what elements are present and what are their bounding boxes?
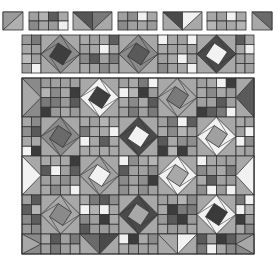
checker-cell [158, 205, 168, 215]
checker-cell [226, 185, 236, 195]
checker-cell [129, 234, 139, 244]
checker-cell [100, 195, 110, 205]
checker-cell [61, 244, 71, 254]
checker-cell [187, 215, 197, 225]
checker-cell [32, 146, 42, 156]
checker-cell [22, 35, 32, 45]
checker-cell [129, 244, 139, 254]
edge-triangle-block [236, 156, 254, 195]
checker-cell [129, 176, 139, 186]
checker-cell [138, 21, 148, 30]
checker-cell [109, 117, 119, 127]
checker-cell [90, 64, 100, 74]
checker-cell [236, 127, 245, 137]
checker-cell [245, 146, 254, 156]
checker-cell [217, 234, 227, 244]
checker-cell [119, 156, 129, 166]
checker-block [119, 156, 158, 195]
checker-cell [178, 195, 188, 205]
checker-block [118, 12, 157, 30]
checker-cell [168, 45, 178, 55]
checker-cell [178, 35, 188, 45]
checker-cell [61, 166, 71, 176]
checker-cell [119, 185, 129, 195]
checker-cell [100, 117, 110, 127]
checker-cell [22, 205, 32, 215]
checker-cell [245, 127, 254, 137]
checker-cell [70, 176, 80, 186]
edge-triangle-block [236, 78, 254, 117]
checker-cell [217, 21, 227, 30]
checker-cell [148, 166, 158, 176]
square-in-square-block [41, 195, 80, 234]
checker-cell [109, 195, 119, 205]
checker-cell [236, 146, 245, 156]
checker-cell [32, 137, 42, 147]
checker-block [119, 234, 158, 254]
checker-block [80, 35, 119, 73]
checker-cell [41, 98, 51, 108]
checker-cell [58, 21, 68, 30]
checker-cell [22, 54, 32, 64]
checker-cell [217, 166, 227, 176]
checker-cell [109, 137, 119, 147]
checker-cell [39, 12, 49, 21]
flying-geese-block [158, 234, 197, 254]
checker-cell [245, 137, 254, 147]
checker-cell [207, 107, 217, 117]
checker-cell [139, 185, 149, 195]
checker-cell [139, 156, 149, 166]
flying-geese-block [73, 12, 112, 30]
checker-cell [226, 234, 236, 244]
checker-cell [32, 205, 42, 215]
checker-cell [22, 215, 32, 225]
checker-cell [118, 12, 128, 21]
checker-cell [139, 166, 149, 176]
checker-cell [178, 146, 188, 156]
checker-cell [70, 156, 80, 166]
checker-cell [187, 127, 197, 137]
edge-triangle-block [22, 234, 41, 254]
square-in-square-block [197, 35, 236, 73]
checker-cell [80, 127, 90, 137]
checker-cell [119, 88, 129, 98]
checker-cell [226, 176, 236, 186]
checker-cell [128, 21, 138, 30]
checker-cell [148, 234, 158, 244]
checker-cell [178, 117, 188, 127]
checker-cell [119, 176, 129, 186]
checker-cell [32, 215, 42, 225]
half-square-triangle-block [3, 12, 23, 30]
checker-cell [217, 12, 227, 21]
checker-cell [129, 88, 139, 98]
checker-cell [22, 45, 32, 55]
checker-cell [236, 21, 246, 30]
checker-cell [22, 195, 32, 205]
checker-cell [168, 35, 178, 45]
checker-block [158, 35, 197, 73]
checker-cell [119, 107, 129, 117]
checker-cell [100, 45, 110, 55]
checker-cell [100, 215, 110, 225]
checker-cell [32, 54, 42, 64]
checker-cell [41, 78, 51, 88]
checker-cell [51, 176, 61, 186]
checker-cell [158, 215, 168, 225]
checker-cell [129, 166, 139, 176]
checker-cell [207, 88, 217, 98]
checker-cell [80, 117, 90, 127]
checker-cell [119, 234, 129, 244]
checker-cell [148, 78, 158, 88]
checker-cell [41, 185, 51, 195]
checker-cell [100, 54, 110, 64]
checker-cell [226, 107, 236, 117]
checker-cell [61, 107, 71, 117]
checker-cell [217, 244, 227, 254]
main-quilt-grid [22, 78, 254, 254]
checker-cell [236, 195, 245, 205]
checker-cell [236, 117, 245, 127]
checker-cell [158, 127, 168, 137]
checker-cell [61, 156, 71, 166]
checker-block [41, 156, 80, 195]
checker-cell [148, 185, 158, 195]
